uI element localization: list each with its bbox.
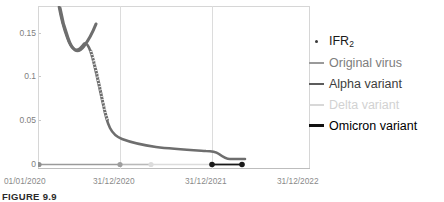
legend-label-ifr2: IFR2 xyxy=(329,34,354,49)
y-axis: 0.15 0.1 0.05 0 xyxy=(0,0,36,202)
legend-line-marker-icon xyxy=(303,104,329,106)
marker-original-virus-start xyxy=(38,162,42,167)
legend-label-original-virus: Original virus xyxy=(329,56,402,70)
figure-container: 0.15 0.1 0.05 0 xyxy=(0,0,444,202)
legend-item-ifr2: IFR2 xyxy=(303,31,444,52)
legend-dot-marker-icon xyxy=(303,40,329,43)
x-tick-label-31-12-2020: 31/12/2020 xyxy=(93,176,135,186)
legend-item-original-virus: Original virus xyxy=(303,52,444,73)
legend-label-delta-variant: Delta variant xyxy=(329,98,399,112)
legend-item-delta-variant: Delta variant xyxy=(303,94,444,115)
marker-delta-variant-start xyxy=(148,162,153,167)
legend-label-omicron-variant: Omicron variant xyxy=(329,119,417,133)
legend-line-marker-icon xyxy=(303,124,329,126)
series-ifr2-curve xyxy=(59,7,245,159)
legend-line-marker-icon xyxy=(303,83,329,85)
legend-item-alpha-variant: Alpha variant xyxy=(303,73,444,94)
x-tick-label-31-12-2021: 31/12/2021 xyxy=(185,176,227,186)
legend-item-omicron-variant: Omicron variant xyxy=(303,115,444,136)
x-tick-label-01-01-2020: 01/01/2020 xyxy=(4,176,46,186)
y-tick-label-0.15: 0.15 xyxy=(2,29,36,38)
figure-caption: FIGURE 9.9 xyxy=(2,191,57,202)
series-ifr2-dotted-overlay xyxy=(91,51,108,121)
legend-line-marker-icon xyxy=(303,62,329,64)
x-tick-label-31-12-2022: 31/12/2022 xyxy=(277,176,319,186)
chart-plot-svg xyxy=(38,6,310,169)
y-tick-label-0.05: 0.05 xyxy=(2,116,36,125)
marker-original-virus-end xyxy=(117,162,122,167)
x-axis: 01/01/2020 31/12/2020 31/12/2021 31/12/2… xyxy=(0,176,444,190)
marker-omicron-variant-end xyxy=(239,162,245,168)
legend-label-alpha-variant: Alpha variant xyxy=(329,77,402,91)
y-tick-label-0.1: 0.1 xyxy=(2,72,36,81)
y-tick-label-0: 0 xyxy=(2,160,36,169)
marker-omicron-variant-start xyxy=(209,162,215,168)
chart-legend: IFR2 Original virus Alpha variant Delta … xyxy=(303,31,444,136)
plot-area xyxy=(38,6,310,169)
